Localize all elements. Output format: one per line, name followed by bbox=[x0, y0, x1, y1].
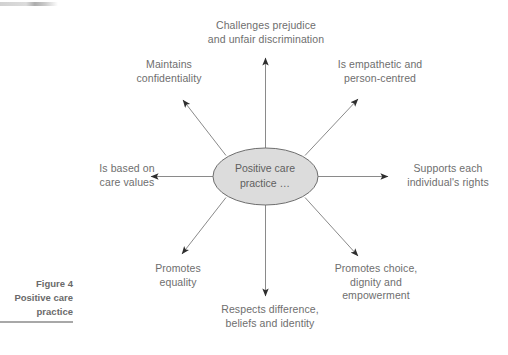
node-label-is-based-on-care-values: Is based on care values bbox=[78, 162, 176, 189]
figure-caption-rule bbox=[0, 321, 73, 323]
figure-caption: Figure 4 Positive care practice bbox=[0, 277, 73, 319]
spoke-arrow-up-left bbox=[183, 100, 226, 156]
node-label-promotes-choice: Promotes choice, dignity and empowerment bbox=[315, 262, 437, 303]
node-label-maintains-confidentiality: Maintains confidentiality bbox=[115, 58, 223, 85]
figure-page: Positive care practice … Challenges prej… bbox=[0, 0, 508, 355]
center-node-label: Positive care practice … bbox=[205, 161, 325, 191]
node-label-respects-difference: Respects difference, beliefs and identit… bbox=[203, 303, 337, 330]
node-label-supports-rights: Supports each individual's rights bbox=[393, 162, 503, 189]
spoke-arrow-up-right bbox=[305, 99, 358, 156]
node-label-is-empathetic: Is empathetic and person-centred bbox=[318, 58, 442, 85]
node-label-promotes-equality: Promotes equality bbox=[130, 262, 226, 289]
node-label-challenges-prejudice: Challenges prejudice and unfair discrimi… bbox=[185, 19, 347, 46]
spoke-arrow-down-left bbox=[182, 198, 226, 255]
spoke-arrow-down-right bbox=[305, 198, 358, 257]
